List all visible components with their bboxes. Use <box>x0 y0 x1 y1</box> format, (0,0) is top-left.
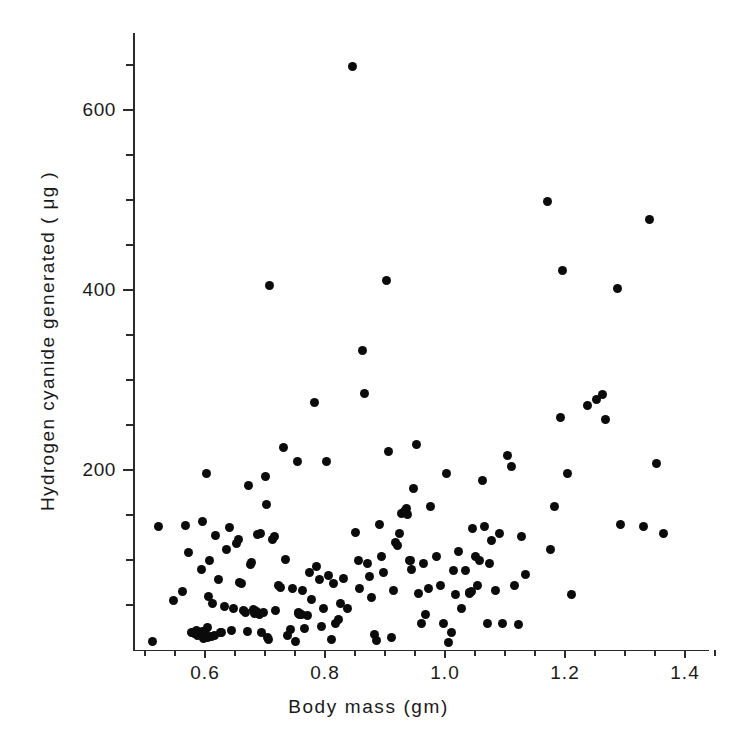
data-point <box>563 469 572 478</box>
data-point <box>229 604 238 613</box>
x-axis-title: Body mass (gm) <box>0 696 737 718</box>
data-point <box>291 637 300 646</box>
data-point <box>365 572 374 581</box>
data-point <box>317 622 326 631</box>
data-point <box>613 284 622 293</box>
data-point <box>451 590 460 599</box>
data-point <box>659 529 668 538</box>
data-point <box>457 604 466 613</box>
data-point <box>198 517 207 526</box>
data-point <box>256 529 265 538</box>
data-point <box>503 451 512 460</box>
data-point <box>343 604 352 613</box>
data-point <box>395 529 404 538</box>
data-point <box>480 522 489 531</box>
data-point <box>468 524 477 533</box>
data-point <box>389 586 398 595</box>
data-point <box>315 575 324 584</box>
data-point <box>387 633 396 642</box>
data-point <box>286 625 295 634</box>
data-point <box>348 62 357 71</box>
data-point <box>583 401 592 410</box>
data-point <box>148 637 157 646</box>
data-point <box>498 619 507 628</box>
data-point <box>550 502 559 511</box>
data-point <box>454 547 463 556</box>
data-point <box>442 469 451 478</box>
data-point <box>601 415 610 424</box>
data-point <box>439 619 448 628</box>
data-point <box>312 562 321 571</box>
data-point <box>197 565 206 574</box>
data-point <box>514 620 523 629</box>
data-point <box>409 484 418 493</box>
scatter-plot-figure: 200400600 0.60.81.01.21.4 Body mass (gm)… <box>0 0 737 753</box>
data-point <box>261 472 270 481</box>
data-point <box>169 596 178 605</box>
data-point <box>205 556 214 565</box>
data-point <box>327 635 336 644</box>
data-point <box>222 545 231 554</box>
data-point <box>322 457 331 466</box>
data-point <box>329 579 338 588</box>
data-point <box>227 626 236 635</box>
data-point <box>279 443 288 452</box>
data-point <box>421 610 430 619</box>
data-point <box>264 635 273 644</box>
data-point <box>483 619 492 628</box>
data-point <box>271 606 280 615</box>
data-point <box>543 197 552 206</box>
data-point <box>181 521 190 530</box>
y-axis-title: Hydrogen cyanide generated ( μg ) <box>37 61 59 621</box>
data-point <box>377 552 386 561</box>
data-point <box>184 548 193 557</box>
data-point <box>616 520 625 529</box>
data-point <box>293 457 302 466</box>
data-point <box>546 545 555 554</box>
data-point <box>507 462 516 471</box>
data-point <box>485 559 494 568</box>
data-point <box>375 520 384 529</box>
data-point <box>265 281 274 290</box>
data-point <box>288 584 297 593</box>
data-point <box>334 615 343 624</box>
data-point <box>419 559 428 568</box>
data-point <box>517 532 526 541</box>
data-point <box>234 535 243 544</box>
data-point <box>247 558 256 567</box>
data-point <box>351 528 360 537</box>
data-point <box>487 536 496 545</box>
data-point <box>154 522 163 531</box>
data-point <box>447 628 456 637</box>
data-point <box>252 607 261 616</box>
data-point <box>379 568 388 577</box>
data-point <box>412 440 421 449</box>
data-point <box>220 602 229 611</box>
data-point <box>300 624 309 633</box>
data-point <box>307 595 316 604</box>
data-point <box>211 531 220 540</box>
data-point <box>567 590 576 599</box>
data-point <box>262 500 271 509</box>
data-point <box>214 575 223 584</box>
data-point-layer <box>0 0 737 753</box>
data-point <box>426 502 435 511</box>
data-point <box>363 559 372 568</box>
data-point <box>319 604 328 613</box>
data-point <box>521 570 530 579</box>
data-point <box>461 566 470 575</box>
data-point <box>495 529 504 538</box>
data-point <box>403 510 412 519</box>
data-point <box>406 556 415 565</box>
data-point <box>367 593 376 602</box>
data-point <box>178 587 187 596</box>
data-point <box>360 389 369 398</box>
data-point <box>558 266 567 275</box>
data-point <box>436 581 445 590</box>
data-point <box>202 469 211 478</box>
data-point <box>310 398 319 407</box>
data-point <box>491 586 500 595</box>
data-point <box>243 627 252 636</box>
data-point <box>417 619 426 628</box>
data-point <box>510 581 519 590</box>
